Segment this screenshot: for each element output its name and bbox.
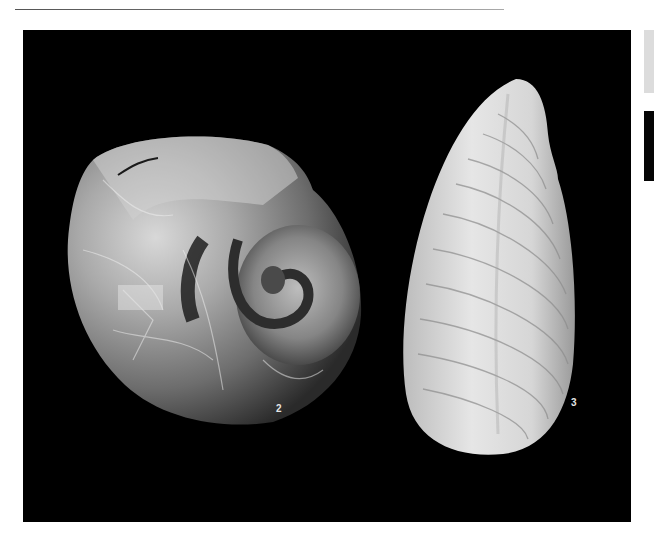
- adjacent-plate-edge-black: [644, 111, 654, 181]
- figure-label-3: 3: [571, 398, 577, 408]
- header-rule: [15, 9, 504, 10]
- figure-label-2: 2: [276, 404, 282, 414]
- adjacent-plate-edge-grey: [644, 30, 654, 93]
- specimen-figure-3-bivalve-shell: [398, 74, 583, 459]
- specimen-figure-2-coiled-shell: [63, 130, 363, 430]
- photo-plate: 2 3: [23, 30, 631, 522]
